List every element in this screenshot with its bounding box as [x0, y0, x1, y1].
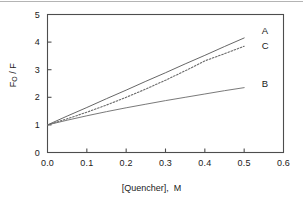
y-axis-title: FO / F — [8, 45, 19, 105]
data-curves — [48, 38, 245, 125]
y-axis-title-subscript: O — [11, 76, 18, 81]
x-tick-label: 0.2 — [120, 158, 133, 168]
y-axis-title-main: F — [8, 82, 18, 88]
y-tick-label: 1 — [26, 120, 40, 130]
plot-area-svg — [0, 0, 303, 202]
series-label-a: A — [262, 24, 268, 35]
x-axis-title: [Quencher], M — [0, 183, 303, 193]
axis-ticks — [48, 42, 245, 152]
x-tick-label: 0.1 — [80, 158, 93, 168]
y-tick-label: 5 — [26, 10, 40, 20]
series-label-c: C — [262, 40, 269, 51]
x-tick-label: 0.6 — [277, 158, 290, 168]
x-tick-label: 0.3 — [159, 158, 172, 168]
chart-figure: 0.00.10.20.30.40.50.6 012345 ACB [Quench… — [0, 0, 303, 202]
x-tick-label: 0.0 — [41, 158, 54, 168]
y-tick-label: 3 — [26, 65, 40, 75]
x-tick-label: 0.4 — [198, 158, 211, 168]
plot-frame — [48, 15, 284, 153]
series-label-b: B — [262, 77, 268, 88]
y-tick-label: 2 — [26, 92, 40, 102]
y-axis-title-tail: / F — [8, 63, 18, 76]
y-tick-label: 0 — [26, 148, 40, 158]
y-tick-label: 4 — [26, 37, 40, 47]
x-tick-label: 0.5 — [238, 158, 251, 168]
